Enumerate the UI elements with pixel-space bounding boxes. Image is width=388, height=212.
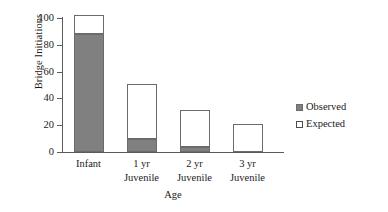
plot-area <box>62 18 274 152</box>
bar-segment-observed[interactable] <box>127 139 157 152</box>
expected-swatch-icon <box>296 121 303 128</box>
y-axis-tick <box>57 152 62 153</box>
bar-segment-expected[interactable] <box>180 110 210 146</box>
bar-segment-expected[interactable] <box>233 124 263 152</box>
y-axis-tick-label: 100 <box>14 13 54 24</box>
legend-label-expected: Expected <box>306 119 345 130</box>
x-axis-category-label: 3 yr Juvenile <box>210 157 286 184</box>
bar-segment-expected[interactable] <box>74 15 104 34</box>
y-axis-tick-label: 60 <box>14 66 54 77</box>
bar-segment-observed[interactable] <box>74 34 104 152</box>
x-axis-line <box>62 152 284 153</box>
legend: Observed Expected <box>296 99 346 133</box>
y-axis-tick-label: 20 <box>14 120 54 131</box>
bar-segment-observed[interactable] <box>180 147 210 152</box>
y-axis-tick-label: 0 <box>14 147 54 158</box>
legend-item-observed: Observed <box>296 99 346 116</box>
legend-item-expected: Expected <box>296 116 346 133</box>
bridge-initiations-bar-chart: Bridge Initiations 020406080100 Infant1 … <box>0 0 388 212</box>
observed-swatch-icon <box>296 104 303 111</box>
bar-segment-expected[interactable] <box>127 84 157 139</box>
x-axis-title: Age <box>62 189 284 200</box>
y-axis-tick-label: 40 <box>14 93 54 104</box>
legend-label-observed: Observed <box>306 102 346 113</box>
y-axis-tick-label: 80 <box>14 40 54 51</box>
